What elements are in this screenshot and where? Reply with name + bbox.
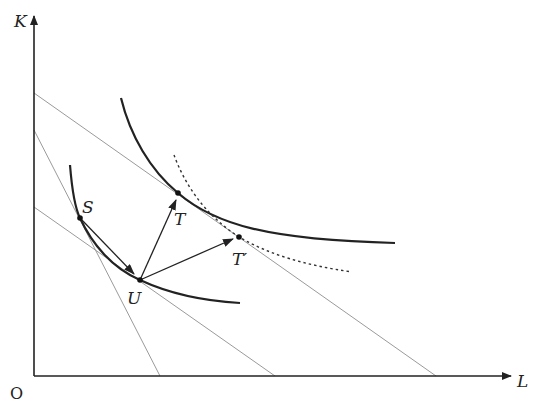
outer-isocost-line (34, 93, 436, 376)
origin-label: O (10, 384, 23, 403)
y-axis-label: K (13, 11, 28, 31)
point-t-prime (236, 234, 242, 240)
point-s-label: S (82, 197, 94, 217)
arrow-u-to-t (140, 200, 176, 280)
point-u-label: U (127, 288, 142, 308)
point-t-prime-label: T′ (232, 249, 247, 269)
upper-isoquant-curve (121, 98, 395, 243)
inner-isocost-line (34, 207, 275, 376)
point-t-label: T (174, 209, 187, 229)
arrow-s-to-u (80, 218, 134, 274)
steep-isocost-line (34, 130, 160, 376)
x-axis-label: L (516, 371, 528, 391)
arrow-u-to-t-prime (140, 239, 233, 280)
isoquant-diagram: K L O S U T T′ (0, 0, 543, 419)
point-t (175, 190, 181, 196)
point-u (137, 277, 143, 283)
